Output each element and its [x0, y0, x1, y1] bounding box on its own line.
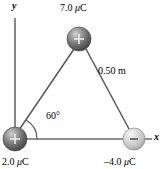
angle-label: 60°	[46, 111, 60, 121]
side-length-label: 0.50 m	[98, 66, 126, 76]
angle-arc	[26, 120, 37, 139]
x-axis-label: x	[154, 132, 159, 142]
physics-diagram-figure: 7.0 μC 2.0 μC –4.0 μC 0.50 m 60° y x	[0, 0, 164, 169]
diagram-canvas	[0, 0, 164, 169]
charge-label-left: 2.0 μC	[2, 157, 29, 167]
triangle-side-right	[86, 49, 129, 129]
charge-label-right: –4.0 μC	[104, 157, 136, 167]
charge-label-top: 7.0 μC	[60, 3, 87, 13]
y-axis-label: y	[12, 1, 16, 11]
